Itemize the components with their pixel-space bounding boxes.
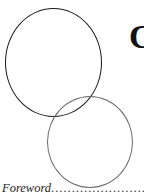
toc-entry-label: Foreword — [2, 181, 51, 196]
toc-dot-leader: ........................................… — [51, 181, 144, 196]
gray-circle-decoration — [47, 96, 133, 188]
document-page: C Foreword .............................… — [0, 0, 144, 196]
toc-entry-foreword[interactable]: Foreword ...............................… — [2, 181, 144, 196]
contents-heading: C — [129, 20, 144, 54]
